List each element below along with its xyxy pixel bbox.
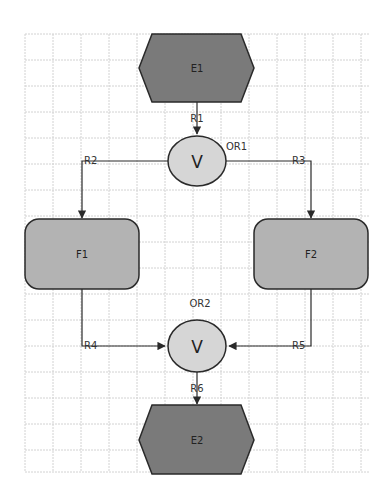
edge-r2-label: R2 [84,155,97,166]
or2-symbol: V [191,337,203,357]
node-f1-label: F1 [76,249,88,260]
node-f1[interactable]: F1 [25,219,139,289]
node-e2-label: E2 [191,435,204,446]
or2-label: OR2 [189,298,210,309]
edge-r4[interactable] [82,289,165,346]
diagram-canvas: E1 V F1 F2 V E2 R1 OR1 R2 R3 OR2 R4 R5 R… [0,0,391,499]
node-f2-label: F2 [305,249,317,260]
edge-r5-label: R5 [292,340,305,351]
edge-r3-label: R3 [292,155,305,166]
node-f2[interactable]: F2 [254,219,368,289]
edge-r1-label: R1 [190,113,203,124]
node-e1-label: E1 [191,63,204,74]
edge-r4-label: R4 [84,340,97,351]
node-or2[interactable]: V [168,320,226,372]
edge-r6-label: R6 [190,383,203,394]
node-or1[interactable]: V [168,136,226,186]
node-e2[interactable]: E2 [139,405,254,474]
node-e1[interactable]: E1 [139,34,254,102]
edge-r5[interactable] [229,289,311,346]
or1-symbol: V [191,152,203,172]
or1-label: OR1 [226,141,247,152]
